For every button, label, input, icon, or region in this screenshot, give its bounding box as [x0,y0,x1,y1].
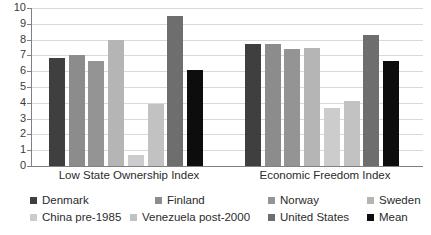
legend-item[interactable]: Denmark [30,194,89,207]
legend-label: Sweden [379,194,421,207]
bar [324,108,340,166]
bar-group [31,8,227,166]
y-tick-mark [27,8,31,9]
bar [245,44,261,166]
y-tick-mark [27,134,31,135]
legend-item[interactable]: Mean [367,211,408,224]
bar [284,49,300,166]
legend-item[interactable]: Sweden [367,194,421,207]
y-tick-mark [27,24,31,25]
legend-item[interactable]: Venezuela post-2000 [130,211,250,224]
legend-swatch-icon [367,214,374,221]
legend-label: Norway [280,194,319,207]
bar [265,44,281,166]
bar [187,70,203,166]
legend-label: Denmark [42,194,89,207]
legend-swatch-icon [268,214,275,221]
bar [167,16,183,166]
bar-groups [31,8,423,166]
y-tick-label: 7 [20,49,26,60]
y-axis-tick-labels: 109876543210 [0,0,26,235]
bar [88,61,104,166]
legend-label: Finland [167,194,205,207]
plot-area [31,8,423,166]
bar-group [227,8,423,166]
category-label: Economic Freedom Index [227,168,423,182]
legend-swatch-icon [130,214,137,221]
y-tick-label: 6 [20,65,26,76]
y-axis-line [31,8,32,166]
y-tick-label: 8 [20,34,26,45]
legend-swatch-icon [30,214,37,221]
bar [363,35,379,166]
y-tick-label: 4 [20,97,26,108]
bar [383,61,399,166]
legend-item[interactable]: Finland [155,194,205,207]
legend-swatch-icon [367,197,374,204]
legend-item[interactable]: China pre-1985 [30,211,121,224]
legend-label: United States [280,211,349,224]
legend-label: Mean [379,211,408,224]
legend-row-2: China pre-1985Venezuela post-2000United … [30,211,428,228]
y-tick-label: 9 [20,18,26,29]
y-tick-mark [27,166,31,167]
axis-baseline [31,166,423,167]
chart-legend: DenmarkFinlandNorwaySweden China pre-198… [30,194,428,230]
legend-item[interactable]: Norway [268,194,319,207]
legend-swatch-icon [268,197,275,204]
bar [148,104,164,166]
y-tick-mark [27,71,31,72]
legend-row-1: DenmarkFinlandNorwaySweden [30,194,428,211]
y-tick-label: 0 [20,160,26,171]
y-tick-mark [27,119,31,120]
y-tick-label: 5 [20,81,26,92]
y-tick-mark [27,150,31,151]
y-tick-mark [27,103,31,104]
legend-label: China pre-1985 [42,211,121,224]
bar [128,155,144,166]
y-tick-mark [27,40,31,41]
y-tick-label: 3 [20,113,26,124]
y-tick-label: 2 [20,128,26,139]
bar-chart: 109876543210 Low State Ownership IndexEc… [0,0,431,235]
bar [49,58,65,166]
legend-swatch-icon [155,197,162,204]
y-tick-mark [27,55,31,56]
legend-label: Venezuela post-2000 [142,211,250,224]
bar [69,55,85,166]
y-tick-label: 1 [20,144,26,155]
legend-item[interactable]: United States [268,211,349,224]
category-axis-labels: Low State Ownership IndexEconomic Freedo… [31,168,423,188]
bar [304,48,320,166]
legend-swatch-icon [30,197,37,204]
y-tick-label: 10 [14,2,26,13]
bar [108,40,124,166]
y-tick-mark [27,87,31,88]
bar [344,101,360,166]
category-label: Low State Ownership Index [31,168,227,182]
